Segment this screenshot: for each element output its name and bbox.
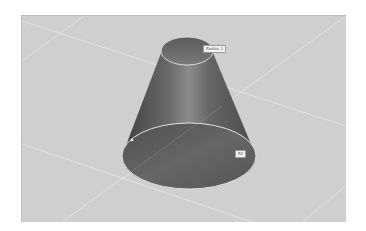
vertex-marker bbox=[131, 139, 134, 142]
3d-viewport[interactable]: Radius 1 R2 bbox=[21, 15, 346, 222]
scene-canvas[interactable] bbox=[22, 16, 346, 222]
bottom-radius-label[interactable]: R2 bbox=[235, 150, 246, 158]
top-radius-label[interactable]: Radius 1 bbox=[203, 45, 226, 53]
